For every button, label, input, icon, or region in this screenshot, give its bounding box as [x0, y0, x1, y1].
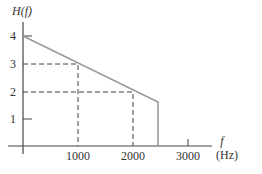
y-tick-label-2: 2	[10, 85, 16, 99]
x-tick-label-2000: 2000	[121, 149, 145, 163]
chart: H(f) 4 3 2 1 1000 2000 3000 f (Hz)	[0, 0, 262, 174]
y-axis-label: H(f)	[11, 4, 32, 18]
x-axis-unit: (Hz)	[216, 148, 238, 162]
y-tick-label-4: 4	[10, 29, 16, 43]
series-line	[23, 36, 158, 146]
x-axis-label: f	[220, 134, 225, 148]
y-tick-label-1: 1	[10, 112, 16, 126]
dashed-guides	[23, 64, 133, 146]
x-tick-label-1000: 1000	[66, 149, 90, 163]
y-tick-label-3: 3	[10, 57, 16, 71]
x-tick-label-3000: 3000	[176, 149, 200, 163]
